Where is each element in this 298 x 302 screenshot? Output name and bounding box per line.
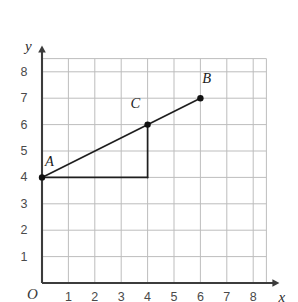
y-tick-label: 4 bbox=[16, 171, 32, 184]
coordinate-plane-figure: 1234567812345678 ACB O x y bbox=[0, 0, 298, 302]
data-point-c bbox=[144, 121, 150, 127]
x-axis-arrowhead bbox=[272, 279, 279, 287]
x-tick-label: 2 bbox=[85, 291, 105, 302]
grid-layer bbox=[42, 59, 266, 283]
y-axis-label: y bbox=[25, 39, 32, 54]
point-label-a: A bbox=[45, 154, 54, 169]
y-axis-arrowhead bbox=[38, 46, 46, 53]
y-tick-label: 7 bbox=[16, 92, 32, 105]
x-tick-label: 5 bbox=[164, 291, 184, 302]
x-tick-label: 6 bbox=[190, 291, 210, 302]
x-tick-label: 3 bbox=[111, 291, 131, 302]
data-point-a bbox=[39, 174, 45, 180]
y-tick-label: 6 bbox=[16, 119, 32, 132]
x-tick-label: 1 bbox=[58, 291, 78, 302]
data-point-b bbox=[197, 95, 203, 101]
x-tick-label: 8 bbox=[243, 291, 263, 302]
x-tick-label: 4 bbox=[138, 291, 158, 302]
y-tick-label: 3 bbox=[16, 198, 32, 211]
origin-label: O bbox=[27, 287, 38, 302]
y-tick-label: 1 bbox=[16, 251, 32, 264]
x-axis-label: x bbox=[278, 290, 285, 302]
y-tick-label: 8 bbox=[16, 66, 32, 79]
x-tick-label: 7 bbox=[217, 291, 237, 302]
y-tick-label: 2 bbox=[16, 224, 32, 237]
axis-layer bbox=[38, 46, 279, 287]
y-tick-label: 5 bbox=[16, 145, 32, 158]
plot-canvas bbox=[0, 0, 298, 302]
point-label-c: C bbox=[130, 96, 140, 111]
point-label-b: B bbox=[202, 71, 211, 86]
